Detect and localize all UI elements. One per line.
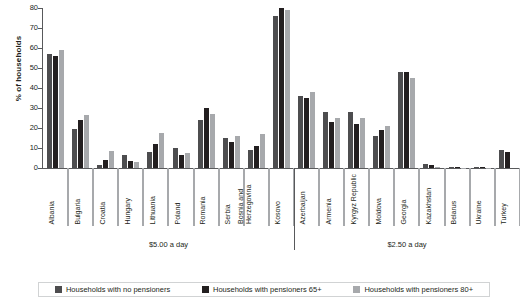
legend-item[interactable]: Households with pensioners 65+	[202, 285, 322, 294]
bar	[279, 8, 284, 168]
bar-group	[294, 8, 319, 168]
bar	[47, 54, 52, 168]
bar	[499, 150, 504, 168]
category-label-cell: Romania	[194, 168, 219, 226]
bar	[179, 155, 184, 168]
category-label-cell: Azerbaijan	[294, 168, 319, 226]
bar-group	[194, 8, 219, 168]
category-label: Kosovo	[274, 201, 282, 224]
legend-label: Households with pensioners 80+	[364, 285, 473, 294]
y-tick-mark-80	[38, 8, 42, 9]
category-label-cell: Kyrgyz Republic	[344, 168, 369, 226]
group-caption: $5.00 a day	[43, 240, 294, 249]
bar	[229, 142, 234, 168]
legend-item[interactable]: Households with pensioners 80+	[353, 285, 473, 294]
category-label: Bulgaria	[73, 198, 81, 224]
legend-label: Households with no pensioners	[66, 285, 170, 294]
y-tick-label-60: 60	[16, 44, 38, 52]
bar	[72, 129, 77, 168]
bar	[103, 160, 108, 168]
bar	[254, 146, 259, 168]
category-label: Georgia	[399, 199, 407, 224]
bar	[505, 152, 510, 168]
y-tick-label-40: 40	[16, 84, 38, 92]
bar-group	[445, 8, 470, 168]
category-label: Ukraine	[475, 200, 483, 224]
category-label: Azerbaijan	[299, 191, 307, 224]
y-tick-mark-30	[38, 108, 42, 109]
category-label: Armenia	[324, 198, 332, 224]
group-caption: $2.50 a day	[294, 240, 520, 249]
bar	[122, 155, 127, 168]
bar	[310, 92, 315, 168]
bar	[159, 133, 164, 168]
category-label-cell: Bosnia and Herzegovina	[244, 168, 269, 226]
bar-group	[394, 8, 419, 168]
bar-group	[43, 8, 68, 168]
y-tick-mark-50	[38, 68, 42, 69]
bar	[78, 120, 83, 168]
bar	[404, 72, 409, 168]
bar	[185, 153, 190, 168]
bar-series-container	[43, 8, 520, 168]
category-label: Turkey	[500, 203, 508, 224]
legend-label: Households with pensioners 65+	[213, 285, 322, 294]
bar-group	[269, 8, 294, 168]
y-tick-mark-40	[38, 88, 42, 89]
bar	[147, 152, 152, 168]
category-label: Moldova	[374, 198, 382, 224]
category-labels: AlbaniaBulgariaCroatiaHungaryLithuaniaPo…	[43, 168, 520, 226]
bar-group	[495, 8, 520, 168]
bar	[285, 10, 290, 168]
y-tick-label-10: 10	[16, 144, 38, 152]
bar-group	[319, 8, 344, 168]
category-label: Lithuania	[148, 196, 156, 224]
bar	[84, 115, 89, 168]
bar	[260, 134, 265, 168]
bar	[410, 78, 415, 168]
category-label: Bosnia and Herzegovina	[237, 168, 252, 224]
bar	[304, 98, 309, 168]
category-label: Serbia	[224, 204, 232, 224]
category-label-cell: Croatia	[93, 168, 118, 226]
bar-group	[470, 8, 495, 168]
category-label: Kyrgyz Republic	[349, 173, 357, 224]
bar	[298, 96, 303, 168]
category-label-cell: Bulgaria	[68, 168, 93, 226]
bar	[153, 144, 158, 168]
bar-group	[68, 8, 93, 168]
category-label-cell: Georgia	[394, 168, 419, 226]
bar	[204, 108, 209, 168]
plot-area: 01020304050607080	[42, 8, 520, 168]
bar	[235, 136, 240, 168]
category-label-cell: Moldova	[369, 168, 394, 226]
bar	[198, 120, 203, 168]
category-label-cell: Armenia	[319, 168, 344, 226]
bar-group	[244, 8, 269, 168]
bar	[59, 50, 64, 168]
bar	[273, 16, 278, 168]
category-label-cell: Kazakhstan	[419, 168, 444, 226]
y-tick-label-0: 0	[16, 164, 38, 172]
bar	[360, 118, 365, 168]
legend-swatch-icon	[353, 286, 360, 293]
category-label-cell: Belarus	[445, 168, 470, 226]
category-label-cell: Albania	[43, 168, 68, 226]
category-label-cell: Kosovo	[269, 168, 294, 226]
legend-item[interactable]: Households with no pensioners	[55, 285, 170, 294]
y-tick-label-50: 50	[16, 64, 38, 72]
bar	[53, 56, 58, 168]
category-label: Hungary	[123, 198, 131, 224]
category-label: Poland	[174, 202, 182, 224]
bar-group	[344, 8, 369, 168]
category-label-cell: Turkey	[495, 168, 520, 226]
y-tick-mark-0	[38, 168, 42, 169]
bar	[109, 151, 114, 168]
category-label: Romania	[199, 196, 207, 224]
y-tick-label-70: 70	[16, 24, 38, 32]
category-label-cell: Ukraine	[470, 168, 495, 226]
bar-chart: % of households 01020304050607080 Albani…	[0, 0, 526, 305]
category-label: Albania	[48, 201, 56, 224]
bar	[210, 114, 215, 168]
bar	[373, 136, 378, 168]
